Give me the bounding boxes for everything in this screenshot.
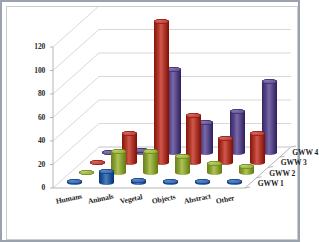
y-axis-tick-label: 120 — [25, 42, 45, 51]
legend-item-gww-2: GWW 2 — [269, 169, 295, 178]
legend-item-gww-1: GWW 1 — [258, 179, 284, 188]
bar-gww-1-other — [227, 179, 242, 185]
bar-cap — [99, 169, 114, 174]
bar-cap — [154, 19, 169, 24]
bar-gww-1-objects — [163, 179, 178, 185]
bar-gww-2-abstract — [207, 161, 222, 175]
bar-cap — [79, 170, 94, 175]
bar-cap — [122, 131, 137, 136]
bar-gww-2-vegetal — [143, 149, 158, 175]
bar-gww-3-vegetal — [154, 19, 169, 165]
bar-gww-3-humans — [90, 160, 105, 165]
y-axis-tick-label: 20 — [25, 160, 45, 169]
bar-cap — [207, 161, 222, 166]
legend-item-gww-3: GWW 3 — [281, 158, 300, 167]
y-axis-tick-label: 80 — [25, 89, 45, 98]
bar-cap — [230, 109, 245, 114]
bar-gww-2-objects — [175, 154, 190, 175]
chart-axes-and-grid — [7, 7, 299, 241]
y-axis-tick-label: 0 — [25, 183, 45, 192]
bar-gww-1-animals — [99, 169, 114, 186]
bar-body — [154, 19, 169, 165]
chart-plot-area: 020406080100120HumansAnimalsVegetalObjec… — [7, 7, 299, 241]
legend-item-gww-4: GWW 4 — [292, 148, 300, 157]
bar-gww-1-abstract — [195, 179, 210, 185]
y-axis-tick-label: 40 — [25, 136, 45, 145]
bar-gww-2-humans — [79, 170, 94, 175]
chart-inner-border: 020406080100120HumansAnimalsVegetalObjec… — [6, 6, 298, 240]
bar-cap — [186, 113, 201, 118]
bar-body — [250, 131, 265, 165]
bar-gww-1-humans — [67, 179, 82, 185]
bar-cap — [90, 160, 105, 165]
bar-gww-1-vegetal — [131, 178, 146, 185]
bar-gww-2-other — [239, 164, 254, 175]
chart-frame: 020406080100120HumansAnimalsVegetalObjec… — [0, 0, 300, 242]
bar-cap — [250, 131, 265, 136]
bar-gww-3-other — [250, 131, 265, 165]
bar-cap — [111, 149, 126, 154]
y-axis-tick-label: 60 — [25, 113, 45, 122]
bar-cap — [143, 149, 158, 154]
bar-cap — [175, 154, 190, 159]
y-axis-tick-label: 100 — [25, 66, 45, 75]
